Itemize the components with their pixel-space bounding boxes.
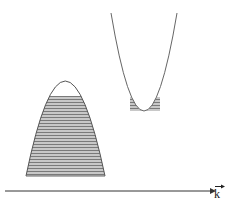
conduction-band-curve <box>111 13 177 111</box>
valence-band-fill <box>20 96 110 176</box>
valence-band <box>20 81 110 176</box>
band-diagram <box>0 0 235 210</box>
k-axis <box>5 188 216 194</box>
axis-label-k: k <box>214 187 220 202</box>
conduction-band <box>111 13 177 113</box>
